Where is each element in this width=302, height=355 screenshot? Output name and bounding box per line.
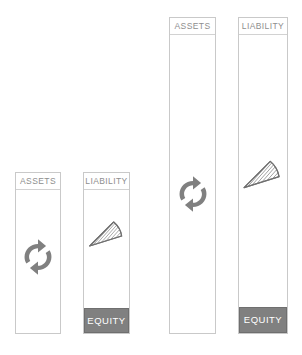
bar-header-liability-after: LIABILITY	[239, 18, 287, 35]
bar-label-assets-before: ASSETS	[20, 177, 56, 186]
bar-body-assets-after	[170, 35, 215, 333]
equity-block-after[interactable]: EQUITY	[239, 307, 287, 333]
bar-body-liability-before	[84, 190, 129, 308]
bar-label-assets-after: ASSETS	[175, 22, 211, 31]
bar-assets-before[interactable]: ASSETS	[15, 172, 61, 334]
bar-label-liability-after: LIABILITY	[242, 22, 284, 31]
bar-header-liability-before: LIABILITY	[84, 173, 129, 190]
bar-header-assets-after: ASSETS	[170, 18, 215, 35]
bar-header-assets-before: ASSETS	[16, 173, 60, 190]
bar-label-liability-before: LIABILITY	[85, 177, 127, 186]
bar-body-assets-before	[16, 190, 60, 333]
equity-block-before[interactable]: EQUITY	[84, 308, 129, 333]
equity-label-after: EQUITY	[244, 315, 282, 325]
equity-label-before: EQUITY	[87, 316, 125, 326]
recycle-arrows-icon	[19, 238, 57, 276]
pie-wedge-icon	[241, 157, 285, 192]
bar-body-liability-after	[239, 35, 287, 307]
bar-assets-after[interactable]: ASSETS	[169, 17, 216, 334]
bar-liability-before[interactable]: LIABILITY	[83, 172, 130, 334]
pie-wedge-icon	[87, 218, 127, 250]
diagram-canvas: ASSETS LIABILITY	[0, 0, 302, 355]
recycle-arrows-icon	[174, 175, 212, 213]
bar-liability-after[interactable]: LIABILITY	[238, 17, 288, 334]
